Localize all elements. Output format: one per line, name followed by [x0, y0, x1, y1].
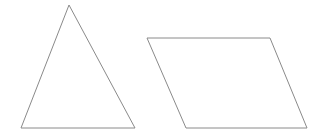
triangle-shape: [21, 5, 135, 128]
parallelogram-shape: [147, 38, 307, 128]
diagram-canvas: [0, 0, 319, 137]
